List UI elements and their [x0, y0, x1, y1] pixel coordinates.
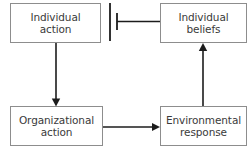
node-individual-beliefs[interactable]: Individual beliefs [160, 3, 247, 43]
node-organizational-action-label: Organizational action [17, 114, 96, 139]
blocked-link-individual-beliefs-to-individual-action [117, 13, 160, 30]
node-organizational-action[interactable]: Organizational action [10, 106, 103, 146]
node-individual-beliefs-label: Individual beliefs [176, 11, 230, 36]
diagram-canvas: Individual action Individual beliefs Org… [0, 0, 252, 151]
arrow-organizational-action-to-environmental-response [103, 123, 160, 131]
node-individual-action[interactable]: Individual action [10, 3, 101, 43]
node-environmental-response-label: Environmental response [164, 114, 243, 139]
node-environmental-response[interactable]: Environmental response [160, 106, 247, 146]
arrow-environmental-response-to-individual-beliefs [199, 43, 207, 106]
arrow-individual-action-to-organizational-action [52, 43, 60, 107]
node-individual-action-label: Individual action [28, 11, 82, 36]
